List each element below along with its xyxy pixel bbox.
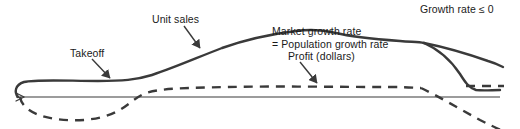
diagram-canvas bbox=[0, 0, 520, 129]
unit-sales-leader-arrow bbox=[184, 26, 200, 48]
product-life-cycle-figure: Takeoff Unit sales Growth rate ≤ 0 Marke… bbox=[0, 0, 520, 129]
annotation-unit-sales: Unit sales bbox=[152, 13, 199, 25]
annotation-growth-rate: Growth rate ≤ 0 bbox=[420, 3, 494, 15]
annotation-center-block: Market growth rate = Population growth r… bbox=[272, 25, 389, 63]
annotation-takeoff: Takeoff bbox=[70, 47, 104, 59]
profit-decline-branch bbox=[421, 88, 508, 129]
annotation-market-growth-rate: Market growth rate bbox=[272, 25, 389, 38]
profit-leader-arrow bbox=[300, 62, 317, 83]
takeoff-leader-arrow bbox=[92, 59, 110, 78]
annotation-profit: Profit (dollars) bbox=[272, 50, 389, 63]
profit-curve bbox=[20, 87, 421, 121]
unit-sales-decline-branch bbox=[424, 43, 500, 90]
annotation-population-growth-rate: = Population growth rate bbox=[272, 38, 389, 51]
growth-rate-tail-branch bbox=[424, 43, 503, 67]
